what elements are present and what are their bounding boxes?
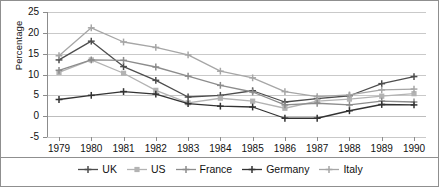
legend-marker-square-icon [126,164,148,175]
legend-item-france[interactable]: France [175,164,233,175]
legend-item-italy[interactable]: Italy [318,164,362,175]
y-tick-label-10: 10 [9,70,39,80]
series-uk [56,38,418,106]
legend-item-germany[interactable]: Germany [241,164,309,175]
y-tick-label-25: 25 [9,7,39,17]
legend-label-uk: UK [102,164,117,175]
x-tickmark-1980 [91,137,92,141]
y-tick-label-0: 0 [9,111,39,121]
x-tickmark-1981 [124,137,125,141]
line-chart: Percentage -50510152025 1979198019811982… [0,0,440,189]
y-tick-label--5: -5 [9,132,39,142]
x-tick-label-1990: 1990 [394,143,434,154]
x-tickmark-1979 [59,137,60,141]
x-tickmark-1988 [349,137,350,141]
legend-marker-plus-icon [318,164,340,175]
plot-area [47,12,426,137]
series-lines [47,12,426,137]
gridline--5 [47,137,426,138]
legend-marker-plus-icon [77,164,99,175]
x-tickmark-1984 [220,137,221,141]
x-tickmark-1987 [317,137,318,141]
y-tick-label-15: 15 [9,49,39,59]
x-tickmark-1983 [188,137,189,141]
legend-label-us: US [151,164,166,175]
chart-frame-left-border [0,0,1,157]
x-tickmark-1989 [382,137,383,141]
series-france [56,57,418,109]
legend-label-italy: Italy [343,164,362,175]
y-tick-label-20: 20 [9,28,39,38]
x-tickmark-1985 [253,137,254,141]
y-tick-label-5: 5 [9,90,39,100]
legend-item-uk[interactable]: UK [77,164,117,175]
chart-frame-right-border [438,0,439,157]
x-tickmark-1990 [414,137,415,141]
legend-label-germany: Germany [266,164,309,175]
legend-marker-plus-icon [241,164,263,175]
x-tickmark-1982 [156,137,157,141]
legend-item-us[interactable]: US [126,164,166,175]
chart-frame-top-border [0,0,439,1]
legend-marker-plus-icon [175,164,197,175]
x-tickmark-1986 [285,137,286,141]
legend-label-france: France [200,164,233,175]
chart-legend: UKUSFranceGermanyItaly [0,164,440,175]
y-tickmark--5 [43,137,47,138]
